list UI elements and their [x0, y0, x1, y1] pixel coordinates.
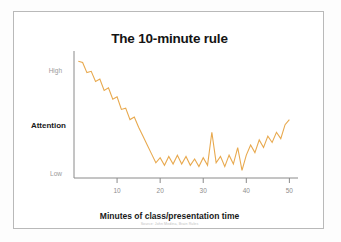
x-axis-ticks [117, 178, 289, 183]
credit-text: Source: John Medina, Brain Rules [14, 222, 325, 226]
x-axis-tick-label: 30 [191, 187, 215, 194]
attention-data-line [78, 61, 289, 170]
x-axis-tick-label: 40 [234, 187, 258, 194]
x-axis-tick-label: 20 [148, 187, 172, 194]
x-axis-tick-label: 50 [277, 187, 301, 194]
x-axis-title: Minutes of class/presentation time [14, 211, 325, 221]
plot-area: 1020304050 [14, 12, 325, 230]
x-axis-tick-label: 10 [105, 187, 129, 194]
slide-frame: The 10-minute rule High Low Attention 10… [0, 0, 341, 242]
chart-svg [14, 12, 325, 230]
slide-card: The 10-minute rule High Low Attention 10… [13, 11, 324, 229]
